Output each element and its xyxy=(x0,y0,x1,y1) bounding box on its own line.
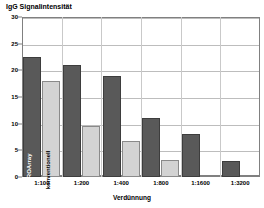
bar-konventionell-1-100: konventionell xyxy=(42,81,60,177)
y-axis-tick-label: 20 xyxy=(11,67,18,73)
category-separator xyxy=(181,17,182,177)
bar-group xyxy=(62,17,102,177)
bar-group xyxy=(181,17,221,177)
category-separator xyxy=(141,17,142,177)
x-axis-tick-label: 1:3200 xyxy=(231,180,250,186)
y-axis-tick-label: 30 xyxy=(11,14,18,20)
x-axis-tick-labels: 1:1001:2001:4001:8001:16001:3200 xyxy=(22,180,260,192)
bar-group xyxy=(220,17,260,177)
bar-euroarray-1-3200 xyxy=(222,161,240,177)
bar-euroarray-1-400 xyxy=(103,76,121,177)
y-axis-tick-label: 10 xyxy=(11,121,18,127)
bar-group: EUROArraykonventionell xyxy=(22,17,62,177)
category-separator xyxy=(101,17,102,177)
y-axis-tick-mark xyxy=(18,43,22,44)
category-separator xyxy=(62,17,63,177)
y-axis-tick-label: 15 xyxy=(11,94,18,100)
y-axis-tick-label: 25 xyxy=(11,41,18,47)
y-axis-tick-mark xyxy=(18,70,22,71)
bar-konventionell-1-800 xyxy=(161,160,179,177)
x-axis-tick-label: 1:400 xyxy=(113,180,128,186)
y-axis-tick-mark xyxy=(18,97,22,98)
bar-euroarray-1-100: EUROArray xyxy=(23,57,41,177)
category-separator xyxy=(220,17,221,177)
bar-euroarray-1-800 xyxy=(142,118,160,177)
y-axis-tick-mark xyxy=(18,150,22,151)
y-axis-tick-mark xyxy=(18,17,22,18)
chart-container: IgG Signalintensität 051015202530 EUROAr… xyxy=(0,0,264,208)
x-axis-tick-label: 1:100 xyxy=(34,180,49,186)
y-axis-tick-mark xyxy=(18,123,22,124)
bar-group xyxy=(141,17,181,177)
y-axis: 051015202530 xyxy=(0,17,20,177)
bar-konventionell-1-200 xyxy=(82,126,100,177)
chart-title: IgG Signalintensität xyxy=(6,3,72,10)
bar-euroarray-1-1600 xyxy=(182,134,200,177)
x-axis-tick-label: 1:200 xyxy=(74,180,89,186)
bar-konventionell-1-400 xyxy=(122,141,140,177)
y-axis-tick-mark xyxy=(18,177,22,178)
x-axis-tick-label: 1:800 xyxy=(153,180,168,186)
bar-euroarray-1-200 xyxy=(63,65,81,177)
bars-layer: EUROArraykonventionell xyxy=(22,17,260,177)
x-axis-title: Verdünnung xyxy=(0,194,264,201)
bar-group xyxy=(101,17,141,177)
x-axis-tick-label: 1:1600 xyxy=(191,180,210,186)
